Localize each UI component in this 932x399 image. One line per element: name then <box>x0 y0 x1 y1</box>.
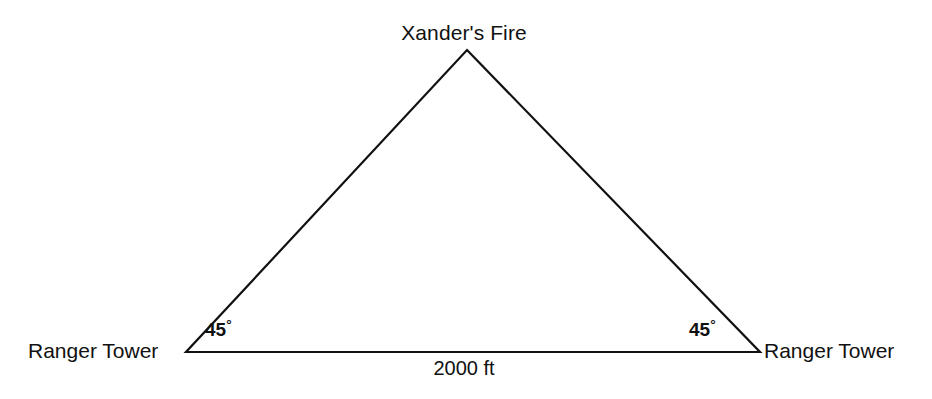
apex-vertex-label: Xander's Fire <box>0 22 932 43</box>
degree-symbol-icon: ° <box>710 317 715 332</box>
triangle-diagram: Xander's Fire Ranger Tower Ranger Tower … <box>0 0 932 399</box>
left-angle-value: 45 <box>205 319 226 340</box>
right-angle-value: 45 <box>689 319 710 340</box>
triangle-outline <box>186 50 760 352</box>
base-length-text: 2000 ft <box>433 358 494 378</box>
degree-symbol-icon: ° <box>226 317 231 332</box>
right-angle-label: 45° <box>689 320 716 339</box>
apex-vertex-label-text: Xander's Fire <box>401 22 527 43</box>
left-angle-label: 45° <box>205 320 232 339</box>
base-length-label: 2000 ft <box>0 358 932 378</box>
